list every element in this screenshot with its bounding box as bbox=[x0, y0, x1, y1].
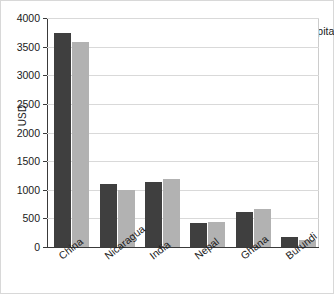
y-tick-mark bbox=[43, 161, 47, 162]
y-tick-mark bbox=[43, 218, 47, 219]
y-tick-mark bbox=[43, 75, 47, 76]
y-tick-label: 4000 bbox=[17, 12, 40, 24]
bar bbox=[145, 182, 162, 247]
bar-chart: USD GDP per capitaGNI per capita 0500100… bbox=[0, 0, 334, 294]
bar bbox=[163, 179, 180, 247]
y-tick-mark bbox=[43, 190, 47, 191]
y-tick-label: 1000 bbox=[17, 184, 40, 196]
y-tick-label: 1500 bbox=[17, 155, 40, 167]
y-tick-label: 2000 bbox=[17, 127, 40, 139]
bar-group bbox=[54, 18, 89, 247]
x-axis-line bbox=[47, 247, 319, 248]
bar bbox=[100, 184, 117, 247]
y-tick-label: 3500 bbox=[17, 41, 40, 53]
y-tick-mark bbox=[43, 133, 47, 134]
plot-area: 05001000150020002500300035004000 ChinaNi… bbox=[47, 18, 319, 248]
y-tick-mark bbox=[43, 104, 47, 105]
bar-group bbox=[281, 18, 316, 247]
y-tick-mark bbox=[43, 18, 47, 19]
bar-group bbox=[100, 18, 135, 247]
y-tick-mark bbox=[43, 47, 47, 48]
bar bbox=[54, 33, 71, 247]
y-tick-label: 500 bbox=[22, 212, 40, 224]
bar bbox=[72, 42, 89, 247]
bar-group bbox=[145, 18, 180, 247]
y-tick-mark bbox=[43, 247, 47, 248]
bar-group bbox=[236, 18, 271, 247]
bar-group bbox=[190, 18, 225, 247]
y-tick-label: 2500 bbox=[17, 98, 40, 110]
y-tick-label: 3000 bbox=[17, 69, 40, 81]
y-tick-label: 0 bbox=[34, 241, 40, 253]
